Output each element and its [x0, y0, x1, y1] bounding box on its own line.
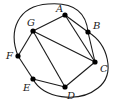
edge-g-f [18, 31, 33, 56]
edge-f-b-curve [14, 4, 88, 56]
edge-c-d [65, 62, 95, 87]
node-e [30, 76, 35, 81]
node-d [62, 84, 67, 89]
node-c [92, 59, 97, 64]
label-a: A [55, 3, 63, 14]
node-b [85, 29, 90, 34]
edge-e-f [18, 56, 33, 79]
label-g: G [27, 17, 35, 28]
label-f: F [5, 50, 14, 61]
graph-diagram: A B C D E F G [0, 0, 114, 104]
node-f [15, 53, 20, 58]
node-g [30, 28, 35, 33]
label-b: B [92, 20, 100, 31]
label-e: E [22, 82, 31, 93]
label-c: C [100, 63, 108, 74]
edge-g-a [33, 15, 65, 31]
label-d: D [66, 90, 75, 101]
edge-a-b [65, 15, 88, 32]
edge-e-b-curve [33, 32, 108, 97]
